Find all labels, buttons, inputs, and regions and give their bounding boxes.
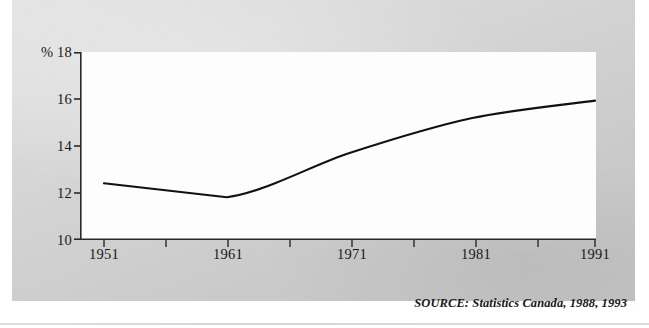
y-tick-label-14: 14 (18, 139, 72, 154)
x-axis-tick-labels: 1951 1961 1971 1981 1991 (80, 247, 596, 269)
y-tick-label-18: % 18 (18, 45, 72, 60)
data-series-line (104, 101, 595, 198)
x-tick-label-1971: 1971 (337, 247, 367, 262)
x-tick-label-1951: 1951 (89, 247, 119, 262)
y-tick-value-18: 18 (57, 44, 72, 60)
x-tick-label-1961: 1961 (213, 247, 243, 262)
x-tick-label-1991: 1991 (580, 247, 610, 262)
y-axis-tick-labels: % 18 16 14 12 10 (18, 52, 72, 240)
chart-svg (80, 52, 596, 240)
source-note: SOURCE: Statistics Canada, 1988, 1993 (414, 296, 627, 311)
percent-symbol: % (41, 44, 53, 60)
x-tick-label-1981: 1981 (461, 247, 491, 262)
plot-area (80, 52, 596, 240)
figure-root: % 18 16 14 12 10 (0, 0, 649, 328)
y-tick-label-10: 10 (18, 233, 72, 248)
y-tick-label-12: 12 (18, 186, 72, 201)
bottom-rule (0, 323, 649, 325)
y-tick-label-16: 16 (18, 92, 72, 107)
